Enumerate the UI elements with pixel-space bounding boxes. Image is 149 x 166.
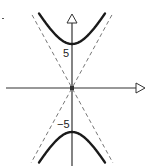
y-axis-arrow bbox=[67, 14, 77, 23]
origin-marker bbox=[70, 86, 74, 90]
y-tick-label-neg-5: −5 bbox=[57, 118, 70, 130]
y-tick-label-5: 5 bbox=[63, 47, 69, 59]
hyperbola-chart: 5 −5 bbox=[0, 0, 149, 166]
x-axis-arrow bbox=[136, 83, 145, 93]
